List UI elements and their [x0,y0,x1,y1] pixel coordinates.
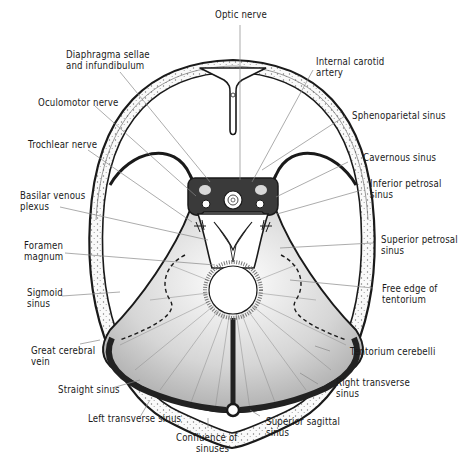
label-text: and infundibulum [66,60,150,71]
label-sigmoid-sinus: Sigmoid sinus [27,287,63,309]
label-text: Straight sinus [58,383,120,395]
label-text: tentorium [382,294,438,305]
label-text: artery [316,67,384,78]
label-optic-nerve: Optic nerve [215,9,267,20]
label-confluence-of-sinuses: Confluence of sinuses [176,432,238,454]
label-text: sinus [370,189,442,200]
label-text: Optic nerve [215,8,267,20]
label-text: sinus [266,427,340,438]
label-sphenoparietal-sinus: Sphenoparietal sinus [352,110,446,121]
label-inferior-petrosal-sinus: Inferior petrosal sinus [370,178,442,200]
label-trochlear-nerve: Trochlear nerve [28,139,97,150]
label-internal-carotid: Internal carotid artery [316,56,384,78]
label-tentorium-cerebelli: Tentorium cerebelli [350,346,435,357]
label-foramen-magnum: Foramen magnum [24,240,63,262]
label-text: vein [31,356,95,367]
label-superior-petrosal-sinus: Superior petrosal sinus [381,234,458,256]
label-superior-sagittal-sinus: Superior sagittal sinus [266,416,340,438]
label-text: sinus [381,245,458,256]
label-basilar-venous-plexus: Basilar venous plexus [20,190,85,212]
label-diaphragma-sellae: Diaphragma sellae and infundibulum [66,49,150,71]
label-straight-sinus: Straight sinus [58,384,120,395]
label-text: sinus [336,388,410,399]
label-left-transverse-sinus: Left transverse sinus [88,413,181,424]
label-text: Oculomotor nerve [38,96,119,108]
label-great-cerebral-vein: Great cerebral vein [31,345,95,367]
label-text: Left transverse sinus [88,412,181,424]
label-text: Trochlear nerve [28,138,97,150]
label-oculomotor-nerve: Oculomotor nerve [38,97,119,108]
confluence-of-sinuses [227,404,239,416]
label-text: sinuses [176,443,238,454]
label-text: magnum [24,251,63,262]
label-right-transverse-sinus: Right transverse sinus [336,377,410,399]
label-text: plexus [20,201,85,212]
label-text: sinus [27,298,63,309]
label-cavernous-sinus: Cavernous sinus [363,152,436,163]
label-text: Sphenoparietal sinus [352,109,446,121]
label-text: Cavernous sinus [363,151,436,163]
label-text: Tentorium cerebelli [350,345,435,357]
label-free-edge-of-tentorium: Free edge of tentorium [382,283,438,305]
